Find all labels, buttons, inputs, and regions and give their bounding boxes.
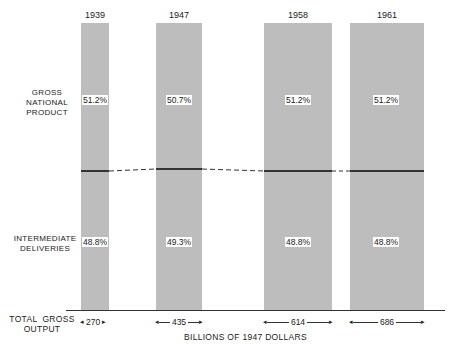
id-pct-1947: 49.3% — [166, 237, 192, 247]
arrow-right-icon: ▸ — [329, 318, 333, 326]
row-label-id-line2: DELIVERIES — [10, 244, 80, 254]
total-value-1939: 270 — [84, 317, 102, 327]
row-label-gnp-line2: NATIONAL — [16, 98, 78, 108]
gnp-pct-1939: 51.2% — [82, 95, 108, 105]
gnp-pct-1947: 50.7% — [166, 95, 192, 105]
id-pct-1961: 48.8% — [373, 237, 399, 247]
arrow-right-icon: ▸ — [102, 318, 106, 326]
row-label-total-gross-output: TOTAL GROSS OUTPUT — [6, 314, 78, 334]
connector-dashes — [0, 0, 449, 351]
gnp-pct-1961: 51.2% — [373, 95, 399, 105]
total-value-1961: 686 — [378, 317, 396, 327]
total-1961: ◂686▸ — [349, 317, 425, 327]
row-label-tgo-line1: TOTAL GROSS — [6, 314, 78, 324]
row-label-gnp: GROSS NATIONAL PRODUCT — [16, 88, 78, 118]
row-label-gnp-line3: PRODUCT — [16, 108, 78, 118]
total-value-1958: 614 — [289, 317, 307, 327]
id-pct-1939: 48.8% — [82, 237, 108, 247]
x-axis-title: BILLIONS OF 1947 DOLLARS — [184, 332, 307, 342]
arrow-right-icon: ▸ — [199, 318, 203, 326]
row-label-id-line1: INTERMEDIATE — [10, 234, 80, 244]
total-value-1947: 435 — [170, 317, 188, 327]
gnp-pct-1958: 51.2% — [285, 95, 311, 105]
total-1958: ◂614▸ — [263, 317, 333, 327]
total-1947: ◂435▸ — [155, 317, 203, 327]
baseline — [66, 310, 445, 311]
row-label-tgo-line2: OUTPUT — [6, 324, 78, 334]
row-label-intermediate: INTERMEDIATE DELIVERIES — [10, 234, 80, 254]
id-pct-1958: 48.8% — [285, 237, 311, 247]
chart: 1939 1947 1958 1961 GROSS NATIONAL PRODU… — [0, 0, 449, 351]
arrow-right-icon: ▸ — [421, 318, 425, 326]
total-1939: ◂270▸ — [80, 317, 110, 327]
row-label-gnp-line1: GROSS — [16, 88, 78, 98]
